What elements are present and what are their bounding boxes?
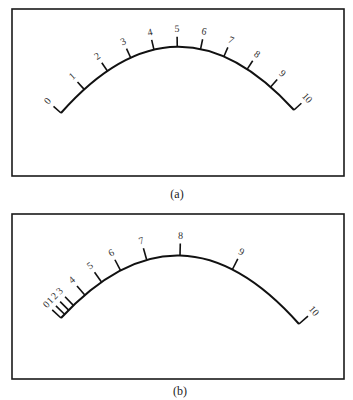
tick-label: 7 — [227, 34, 236, 46]
tick-label: 9 — [277, 67, 288, 79]
tick-mark — [143, 248, 146, 260]
tick-mark — [60, 302, 69, 310]
tick-mark — [54, 106, 61, 113]
tick-label: 5 — [85, 260, 95, 272]
panel-a-caption: (a) — [170, 187, 183, 201]
tick-label: 8 — [178, 230, 183, 241]
tick-label: 4 — [66, 274, 77, 286]
tick-label: 10 — [307, 303, 322, 318]
panel-b-arc — [61, 255, 299, 324]
tick-label: 5 — [174, 23, 179, 34]
tick-mark — [299, 316, 308, 324]
meter-scales-figure: 012345678910 (a) 012345678910 (b) — [0, 0, 353, 400]
tick-mark — [115, 260, 121, 271]
tick-label: 8 — [252, 48, 262, 60]
tick-mark — [52, 310, 61, 318]
panel-b-ticks: 012345678910 — [40, 230, 321, 324]
tick-mark — [271, 79, 278, 87]
tick-mark — [95, 272, 102, 282]
tick-label: 6 — [106, 246, 116, 258]
panel-a: 012345678910 (a) — [12, 9, 344, 201]
tick-label: 10 — [300, 90, 315, 105]
tick-label: 2 — [92, 50, 102, 62]
tick-label: 0 — [42, 95, 54, 106]
tick-mark — [224, 47, 228, 56]
tick-mark — [247, 61, 252, 69]
tick-mark — [56, 306, 65, 314]
tick-mark — [201, 39, 203, 49]
tick-label: 3 — [119, 35, 128, 47]
tick-mark — [102, 63, 108, 71]
tick-mark — [65, 297, 73, 306]
tick-label: 9 — [237, 245, 246, 257]
panel-a-ticks: 012345678910 — [42, 23, 315, 113]
tick-label: 4 — [146, 26, 153, 38]
panel-b: 012345678910 (b) — [12, 214, 344, 398]
tick-mark — [77, 82, 84, 89]
tick-mark — [294, 103, 301, 110]
tick-label: 7 — [137, 234, 145, 246]
tick-mark — [232, 259, 237, 270]
tick-label: 6 — [201, 25, 208, 37]
tick-mark — [77, 286, 85, 295]
tick-mark — [152, 40, 154, 50]
tick-label: 1 — [66, 70, 77, 82]
panel-b-caption: (b) — [173, 384, 187, 398]
tick-mark — [127, 49, 131, 58]
